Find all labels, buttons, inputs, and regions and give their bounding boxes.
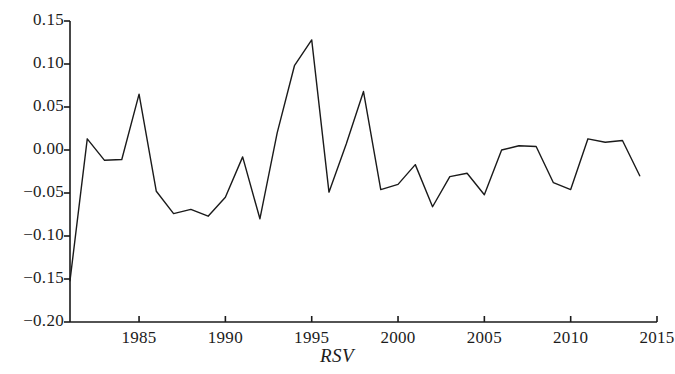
x-axis-ticks: [139, 316, 657, 322]
data-series-line: [70, 40, 640, 281]
y-axis-tick-labels: 0.150.100.050.00−0.05−0.10−0.15−0.20: [0, 0, 64, 374]
y-axis-ticks: [64, 21, 70, 322]
y-axis-tick-label: 0.00: [2, 139, 64, 159]
x-axis-title: RSV: [0, 345, 674, 367]
y-axis-tick-label: −0.20: [2, 311, 64, 331]
y-axis-tick-label: 0.05: [2, 96, 64, 116]
y-axis-tick-label: −0.10: [2, 225, 64, 245]
y-axis-tick-label: 0.10: [2, 53, 64, 73]
y-axis-tick-label: −0.15: [2, 268, 64, 288]
y-axis-tick-label: −0.05: [2, 182, 64, 202]
y-axis-tick-label: 0.15: [2, 10, 64, 30]
